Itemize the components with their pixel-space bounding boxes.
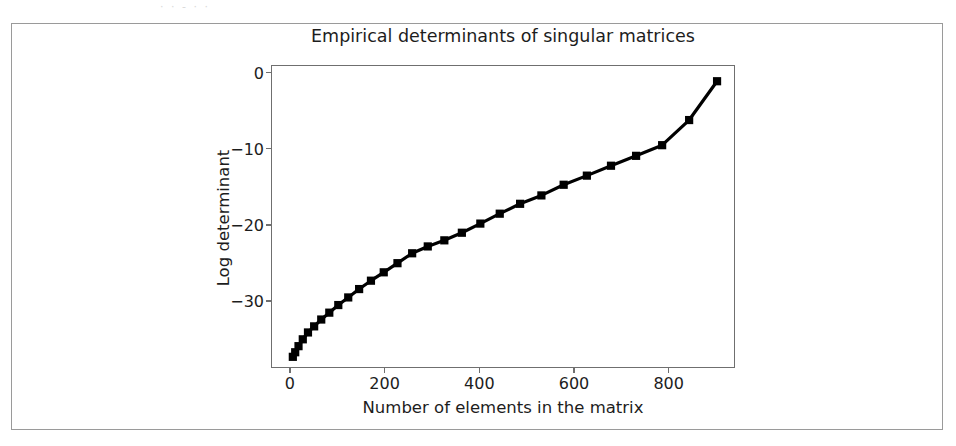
y-tick-mark [266,148,271,149]
x-tick-mark [668,368,669,373]
chart-title: Empirical determinants of singular matri… [271,26,735,46]
data-point-marker [408,249,416,257]
data-point-marker [310,322,318,330]
data-point-marker [424,242,432,250]
x-tick-mark [384,368,385,373]
y-tick-mark [266,224,271,225]
y-tick-label: −30 [230,292,264,311]
y-tick-mark [266,300,271,301]
data-series-svg [272,66,736,369]
data-point-marker [317,315,325,323]
data-point-marker [583,172,591,180]
y-tick-label: 0 [254,63,264,82]
plot-area [271,65,735,368]
x-tick-mark [289,368,290,373]
data-point-marker [607,162,615,170]
y-tick-label: −10 [230,139,264,158]
data-markers [289,77,721,361]
data-point-marker [334,301,342,309]
x-tick-mark [573,368,574,373]
data-point-marker [658,141,666,149]
y-tick-mark [266,72,271,73]
x-tick-mark [479,368,480,373]
data-point-marker [325,309,333,317]
x-tick-labels: 0200400600800 [0,374,956,398]
data-point-marker [560,181,568,189]
data-point-marker [476,219,484,227]
x-tick-label: 600 [559,374,590,393]
data-point-marker [458,229,466,237]
data-point-marker [344,293,352,301]
x-tick-label: 400 [464,374,495,393]
data-point-marker [632,152,640,160]
data-point-marker [496,210,504,218]
data-point-marker [355,285,363,293]
x-tick-label: 800 [653,374,684,393]
data-point-marker [713,77,721,85]
x-tick-label: 0 [285,374,295,393]
x-axis-label: Number of elements in the matrix [271,398,735,417]
data-point-marker [380,268,388,276]
data-line [293,81,717,357]
data-point-marker [537,191,545,199]
figure-container: Empirical determinants of singular matri… [0,0,956,446]
data-point-marker [516,200,524,208]
data-point-marker [367,277,375,285]
data-point-marker [685,116,693,124]
data-point-marker [440,236,448,244]
data-point-marker [393,259,401,267]
x-tick-label: 200 [369,374,400,393]
y-tick-label: −20 [230,215,264,234]
